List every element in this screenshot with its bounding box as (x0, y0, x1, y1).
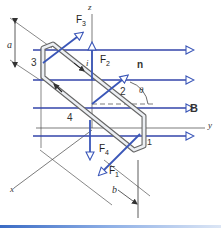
diagram-canvas (0, 0, 221, 229)
dimension-guides (10, 18, 150, 205)
side-4-label: 4 (67, 113, 73, 123)
dimension-b-label: b (112, 185, 117, 195)
force-f4-label: F4 (99, 144, 109, 156)
force-f1-label: F1 (109, 166, 119, 178)
side-2-label: 2 (120, 87, 126, 97)
dimension-a-label: a (7, 40, 12, 50)
theta-label: θ (139, 86, 143, 95)
current-label: i (86, 59, 89, 68)
normal-vector-label: n (137, 60, 143, 70)
current-loop (43, 44, 144, 150)
z-axis-label: z (88, 3, 92, 12)
force-f3-label: F3 (76, 15, 86, 27)
diagram-root: z y x F3 F2 F4 F1 n B θ i 3 2 4 1 a b (0, 0, 221, 229)
x-axis (14, 130, 92, 188)
y-axis-label: y (208, 121, 212, 130)
force-f2-label: F2 (100, 55, 110, 67)
dimension-b-arrow (118, 160, 138, 218)
side-3-label: 3 (31, 58, 37, 68)
x-axis-label: x (10, 185, 14, 194)
bottom-accent-bar (0, 225, 221, 228)
field-b-label: B (190, 103, 198, 114)
side-1-label: 1 (147, 138, 152, 147)
